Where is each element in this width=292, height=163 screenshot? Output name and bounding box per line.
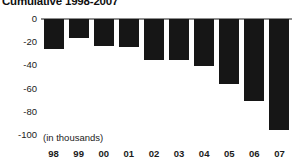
x-axis-tick-label: 00 (91, 148, 116, 159)
bar[interactable] (119, 19, 139, 47)
bar-slot (169, 19, 189, 140)
bar[interactable] (169, 19, 189, 60)
bar-slot (194, 19, 214, 140)
bar-slot (94, 19, 114, 140)
bar-slot (144, 19, 164, 140)
x-axis-tick-label: 99 (66, 148, 91, 159)
y-axis-tick-label: -20 (1, 37, 37, 47)
x-axis-tick-label: 04 (192, 148, 217, 159)
x-axis-tick-label: 02 (141, 148, 166, 159)
bar[interactable] (69, 19, 89, 38)
x-axis: 98990001020304050607 (41, 148, 292, 162)
y-axis-tick-label: -60 (1, 84, 37, 94)
y-axis-tick-label: -100 (1, 130, 37, 140)
units-annotation: (in thousands) (43, 132, 103, 143)
bar-slot (269, 19, 289, 140)
bar[interactable] (194, 19, 214, 66)
bar[interactable] (269, 19, 289, 130)
bar-slot (69, 19, 89, 140)
x-axis-tick-label: 03 (167, 148, 192, 159)
bar[interactable] (144, 19, 164, 60)
bar[interactable] (94, 19, 114, 46)
bar[interactable] (244, 19, 264, 101)
bar-chart-figure: Cumulative 1998-2007 0-20-40-60-80-100 (… (0, 0, 292, 163)
y-axis-tick-label: -80 (1, 107, 37, 117)
y-axis-tick-label: 0 (1, 14, 37, 24)
bar-slot (44, 19, 64, 140)
x-axis-tick-label: 07 (267, 148, 292, 159)
bar[interactable] (219, 19, 239, 84)
x-axis-tick-label: 01 (116, 148, 141, 159)
x-axis-tick-label: 06 (242, 148, 267, 159)
bar-slot (219, 19, 239, 140)
bar[interactable] (44, 19, 64, 49)
bar-series (41, 19, 292, 140)
bar-slot (244, 19, 264, 140)
x-axis-tick-label: 98 (41, 148, 66, 159)
y-axis-tick-label: -40 (1, 60, 37, 70)
plot-area (41, 14, 292, 140)
bar-slot (119, 19, 139, 140)
y-axis: 0-20-40-60-80-100 (0, 0, 37, 163)
x-axis-tick-label: 05 (217, 148, 242, 159)
